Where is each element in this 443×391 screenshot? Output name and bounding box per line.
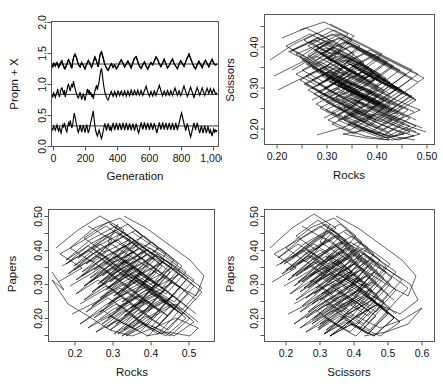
tick-label: 0.40 [248, 240, 260, 261]
tick-label: 0.30 [248, 78, 260, 99]
tick-label: 0.20 [32, 308, 44, 329]
tick-label: 0.40 [248, 37, 260, 58]
rocks-papers-y-ticklabels: 0.50 0.40 0.30 0.20 [32, 206, 44, 329]
rocks-scissors-x-ticks [277, 145, 427, 149]
tick-label: 0.30 [32, 274, 44, 295]
timeseries-xlabel: Generation [107, 170, 164, 182]
tick-label: 0.30 [248, 274, 260, 295]
series-top-detail [52, 52, 217, 71]
tick-label: 0.6 [415, 347, 430, 359]
tick-label: 0.2 [68, 347, 83, 359]
tick-label: 0 [51, 152, 57, 164]
scissors-papers-x-ticklabels: 0.2 0.3 0.4 0.5 0.6 [279, 347, 430, 359]
tick-label: 0.2 [279, 347, 294, 359]
tick-label: 0.0 [36, 139, 48, 154]
panel-timeseries: 2.0 1.5 1.0 0.5 0.0 0 200 400 600 800 [0, 0, 222, 196]
panel-rocks-scissors: 0.40 0.30 0.20 0.20 0.30 0.40 0.50 Rocks [222, 0, 443, 196]
panel-rocks-scissors-svg: 0.40 0.30 0.20 0.20 0.30 0.40 0.50 Rocks [222, 0, 443, 196]
rocks-papers-x-ticks [75, 342, 189, 346]
scissors-papers-y-ticklabels: 0.50 0.40 0.30 0.20 [248, 206, 260, 329]
tick-label: 0.50 [417, 150, 438, 162]
panel-scissors-papers-svg: 0.50 0.40 0.30 0.20 0.2 0.3 0.4 0.5 0.6 … [222, 196, 443, 391]
rocks-papers-y-ticks [45, 217, 49, 336]
tick-label: 0.30 [317, 150, 338, 162]
tick-label: 2.0 [36, 15, 48, 30]
tick-label: 0.3 [313, 347, 328, 359]
scissors-papers-trajectory [270, 214, 422, 336]
tick-label: 0.5 [381, 347, 396, 359]
tick-label: 400 [109, 152, 127, 164]
tick-label: 800 [173, 152, 191, 164]
rocks-scissors-y-ticks [261, 27, 265, 130]
rocks-papers-plot-frame [49, 210, 215, 342]
rocks-scissors-x-ticklabels: 0.20 0.30 0.40 0.50 [267, 150, 438, 162]
tick-label: 0.20 [248, 308, 260, 329]
rocks-scissors-ylabel: Scissors [224, 58, 236, 102]
tick-label: 200 [77, 152, 95, 164]
tick-label: 0.50 [32, 206, 44, 227]
tick-label: 0.40 [32, 240, 44, 261]
rocks-papers-trajectory [52, 216, 204, 336]
timeseries-x-ticks [54, 147, 214, 151]
timeseries-x-ticklabels: 0 200 400 600 800 1,000 [51, 152, 222, 164]
rocks-scissors-y-ticklabels: 0.40 0.30 0.20 [248, 37, 260, 140]
tick-label: 0.20 [267, 150, 288, 162]
tick-label: 0.3 [106, 347, 121, 359]
tick-label: 1.0 [36, 77, 48, 92]
tick-label: 0.4 [144, 347, 159, 359]
panel-rocks-papers-svg: 0.50 0.40 0.30 0.20 0.2 0.3 0.4 0.5 Rock… [0, 196, 222, 391]
scissors-papers-x-ticks [286, 342, 422, 346]
scissors-papers-ylabel: Papers [224, 256, 236, 293]
timeseries-y-ticks [48, 23, 52, 147]
rocks-papers-xlabel: Rocks [116, 366, 148, 378]
tick-label: 0.40 [367, 150, 388, 162]
scissors-papers-xlabel: Scissors [327, 366, 371, 378]
scissors-papers-y-ticks [261, 217, 265, 336]
series-middle [52, 69, 217, 101]
figure-canvas: 2.0 1.5 1.0 0.5 0.0 0 200 400 600 800 [0, 0, 443, 391]
series-bottom [52, 111, 217, 139]
rocks-scissors-xlabel: Rocks [333, 169, 365, 181]
tick-label: 0.5 [36, 108, 48, 123]
rocks-papers-ylabel: Papers [6, 256, 18, 293]
rocks-papers-x-ticklabels: 0.2 0.3 0.4 0.5 [68, 347, 197, 359]
timeseries-y-ticklabels: 2.0 1.5 1.0 0.5 0.0 [36, 15, 48, 154]
tick-label: 1,000 [200, 152, 222, 164]
panel-timeseries-svg: 2.0 1.5 1.0 0.5 0.0 0 200 400 600 800 [0, 0, 222, 196]
rocks-scissors-trajectory [270, 22, 426, 140]
tick-label: 600 [141, 152, 159, 164]
timeseries-ylabel: Propn + X [8, 58, 20, 110]
tick-label: 0.4 [347, 347, 362, 359]
tick-label: 0.50 [248, 206, 260, 227]
tick-label: 1.5 [36, 46, 48, 61]
panel-scissors-papers: 0.50 0.40 0.30 0.20 0.2 0.3 0.4 0.5 0.6 … [222, 196, 443, 391]
tick-label: 0.20 [248, 119, 260, 140]
panel-rocks-papers: 0.50 0.40 0.30 0.20 0.2 0.3 0.4 0.5 Rock… [0, 196, 222, 391]
tick-label: 0.5 [182, 347, 197, 359]
